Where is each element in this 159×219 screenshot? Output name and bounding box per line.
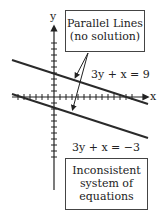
callout-line-1: Inconsistent: [66, 164, 147, 177]
inconsistent-callout: Inconsistent system of equations: [65, 158, 148, 210]
parallel-lines-callout: Parallel Lines (no solution): [65, 10, 145, 52]
callout-line-3: equations: [66, 190, 147, 203]
equation-upper: 3y + x = 9: [91, 68, 150, 81]
equation-lower: 3y + x = −3: [72, 141, 140, 154]
callout-subtitle: (no solution): [66, 30, 144, 43]
pointer-arrow-upper: [76, 53, 88, 76]
y-axis-label: y: [50, 10, 56, 23]
callout-line-2: system of: [66, 177, 147, 190]
line-lower: [12, 94, 148, 138]
x-axis-label: x: [150, 90, 156, 103]
callout-title: Parallel Lines: [66, 17, 144, 30]
